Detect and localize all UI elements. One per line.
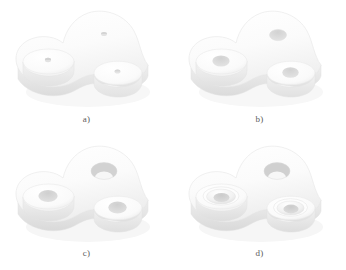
right-boss-drilled-hole (282, 67, 298, 78)
part-render-d (173, 135, 346, 253)
panel-label-b: b) (173, 113, 346, 125)
right-boss-through-hole (283, 205, 298, 214)
part-render-b (173, 0, 346, 118)
figure-panel-a: a) (0, 0, 173, 135)
left-boss-drilled-hole (212, 56, 229, 67)
figure-panel-b: b) (173, 0, 346, 135)
part-render-a (0, 0, 173, 118)
panel-label-c: c) (0, 247, 173, 259)
figure-panel-c: c) (0, 135, 173, 270)
right-boss-bored-hole (108, 202, 126, 214)
left-boss-through-hole (214, 193, 230, 202)
part-render-c (0, 135, 173, 253)
figure-sheet: a) (0, 0, 346, 270)
panel-label-a: a) (0, 113, 173, 125)
figure-panel-d: d) (173, 135, 346, 270)
panel-label-d: d) (173, 247, 346, 259)
left-boss-bored-hole (38, 190, 57, 202)
